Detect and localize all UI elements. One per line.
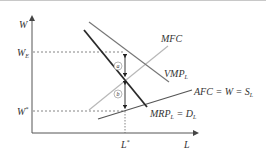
x-axis-label: L bbox=[183, 139, 190, 150]
wstar-label: W* bbox=[17, 106, 28, 117]
vmp-label: VMPL bbox=[164, 68, 189, 80]
monopsony-labor-diagram: a b W L WE W* L* MFC VMPL AFC = W = SL M… bbox=[0, 0, 266, 155]
mrp-label: MRPL = DL bbox=[149, 108, 197, 120]
y-axis-label: W bbox=[19, 19, 29, 30]
lstar-label: L* bbox=[120, 139, 130, 150]
marker-b-label: b bbox=[117, 91, 120, 97]
mfc-curve bbox=[89, 46, 168, 110]
we-label: WE bbox=[17, 47, 29, 59]
marker-a-label: a bbox=[117, 63, 120, 69]
mfc-label: MFC bbox=[160, 33, 182, 44]
afc-label: AFC = W = SL bbox=[193, 86, 254, 98]
